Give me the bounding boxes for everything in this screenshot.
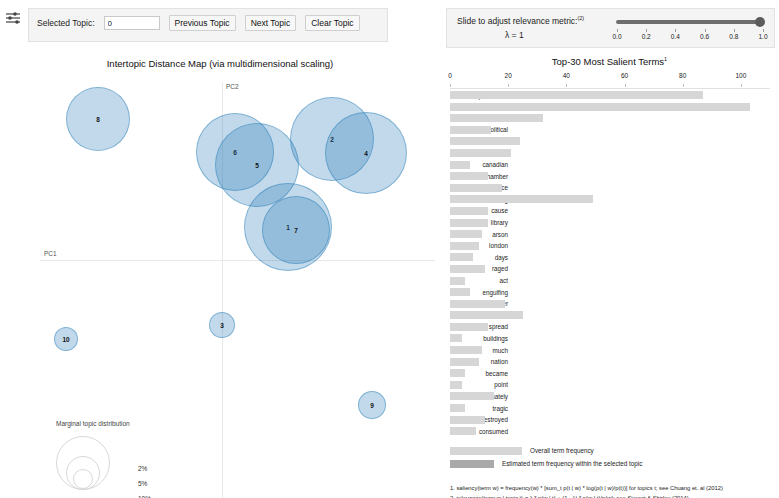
legend-swatch-estimated: [450, 460, 494, 468]
barchart-row[interactable]: spread: [440, 322, 779, 334]
barchart-term-label[interactable]: buildings: [483, 335, 508, 342]
barchart-row[interactable]: became: [440, 368, 779, 380]
relevance-footnote-ref: (2): [577, 15, 584, 21]
barchart-term-label[interactable]: raged: [492, 265, 508, 272]
barchart-row[interactable]: much: [440, 345, 779, 357]
barchart-bar-overall: [450, 103, 750, 111]
barchart-row[interactable]: canadian: [440, 160, 779, 172]
barchart-term-label[interactable]: london: [489, 242, 508, 249]
barchart-term-label[interactable]: canadian: [482, 161, 508, 168]
barchart-row[interactable]: buildings: [440, 333, 779, 345]
barchart-row[interactable]: chamber: [440, 171, 779, 183]
barchart-term-label[interactable]: days: [495, 254, 508, 261]
marginal-legend-label-2: 2%: [138, 465, 147, 472]
barchart-term-label[interactable]: library: [491, 219, 508, 226]
lambda-tick-mark: [705, 29, 706, 32]
barchart-tick-label: 40: [563, 72, 570, 79]
barchart-row[interactable]: iconic: [440, 310, 779, 322]
barchart-row[interactable]: fire: [440, 102, 779, 114]
barchart-bar-overall: [450, 207, 488, 215]
barchart-term-label[interactable]: consumed: [479, 428, 508, 435]
sliders-icon[interactable]: [4, 9, 22, 27]
barchart-bar-overall: [450, 300, 505, 308]
barchart-row[interactable]: destroyed: [440, 415, 779, 427]
barchart-row[interactable]: tragic: [440, 403, 779, 415]
barchart-bar-overall: [450, 416, 485, 424]
relevance-metric-bar: Slide to adjust relevance metric:(2) λ =…: [446, 8, 775, 48]
barchart-term-label[interactable]: arson: [492, 231, 508, 238]
barchart-row[interactable]: london: [440, 241, 779, 253]
barchart-row[interactable]: engulfing: [440, 287, 779, 299]
topic-bubble-label-4: 4: [364, 150, 368, 157]
barchart-title-footnote-ref: 1: [664, 56, 667, 62]
barchart-row[interactable]: days: [440, 252, 779, 264]
barchart-tick-label: 60: [621, 72, 628, 79]
map-title: Intertopic Distance Map (via multidimens…: [0, 58, 440, 69]
barchart-term-label[interactable]: spread: [489, 323, 508, 330]
barchart-bar-overall: [450, 265, 485, 273]
barchart-tick-mark: [450, 84, 451, 87]
barchart-term-label[interactable]: cause: [491, 207, 508, 214]
barchart-bar-overall: [450, 242, 479, 250]
barchart-row[interactable]: consumed: [440, 426, 779, 438]
barchart-term-label[interactable]: engulfing: [482, 289, 508, 296]
barchart-row[interactable]: nation: [440, 357, 779, 369]
footnotes: 1. saliency(term w) = frequency(w) * [su…: [450, 484, 779, 498]
lambda-tick-label: 0.0: [612, 33, 621, 40]
barchart-row[interactable]: houses: [440, 136, 779, 148]
barchart-row[interactable]: burning: [440, 148, 779, 160]
ldavis-root: Selected Topic: Previous Topic Next Topi…: [0, 0, 779, 498]
barchart-row[interactable]: act: [440, 276, 779, 288]
topic-bubble-label-10: 10: [62, 336, 69, 343]
barchart-row[interactable]: library: [440, 218, 779, 230]
intertopic-distance-map: Intertopic Distance Map (via multidimens…: [0, 52, 440, 498]
barchart-bar-overall: [450, 404, 465, 412]
lambda-slider-handle[interactable]: [755, 17, 765, 27]
barchart-bar-overall: [450, 230, 482, 238]
marginal-legend-circle-2: [73, 469, 93, 489]
barchart-bar-overall: [450, 323, 488, 331]
barchart-axis-rule: [450, 88, 770, 89]
barchart-bar-overall: [450, 149, 511, 157]
barchart-tick-mark: [625, 84, 626, 87]
previous-topic-button[interactable]: Previous Topic: [169, 15, 236, 31]
barchart-bar-overall: [450, 334, 462, 342]
barchart-term-label[interactable]: act: [500, 277, 508, 284]
barchart-row[interactable]: building: [440, 194, 779, 206]
relevance-instruction: Slide to adjust relevance metric:(2): [457, 15, 584, 26]
clear-topic-button[interactable]: Clear Topic: [305, 15, 359, 31]
lambda-tick-mark: [675, 29, 676, 32]
lambda-tick-label: 0.2: [642, 33, 651, 40]
selected-topic-input[interactable]: [104, 16, 160, 30]
barchart-bar-overall: [450, 277, 465, 285]
barchart-term-label[interactable]: tragic: [493, 405, 508, 412]
barchart-row[interactable]: political: [440, 125, 779, 137]
barchart-title: Top-30 Most Salient Terms1: [440, 56, 779, 67]
marginal-legend-label-5: 5%: [138, 480, 147, 487]
barchart-row[interactable]: point: [440, 380, 779, 392]
topic-control-bar: Selected Topic: Previous Topic Next Topi…: [28, 8, 388, 42]
next-topic-button[interactable]: Next Topic: [245, 15, 297, 31]
barchart-row[interactable]: ultimately: [440, 391, 779, 403]
lambda-tick-label: 0.8: [729, 33, 738, 40]
barchart-bar-overall: [450, 184, 502, 192]
legend-row-overall: Overall term frequency: [450, 444, 779, 457]
barchart-term-label[interactable]: became: [486, 370, 508, 377]
barchart-row[interactable]: parliament: [440, 90, 779, 102]
barchart-term-label[interactable]: nation: [491, 358, 508, 365]
footnote-2: 2. relevance(term w | topic t) = λ * p(w…: [450, 494, 779, 498]
footnote-1: 1. saliency(term w) = frequency(w) * [su…: [450, 484, 779, 494]
barchart-term-label[interactable]: point: [494, 381, 508, 388]
barchart-row[interactable]: raged: [440, 264, 779, 276]
barchart-term-label[interactable]: much: [493, 347, 508, 354]
barchart-row[interactable]: cause: [440, 206, 779, 218]
legend-label-estimated: Estimated term frequency within the sele…: [502, 460, 642, 467]
barchart-tick-label: 20: [505, 72, 512, 79]
barchart-bar-overall: [450, 253, 473, 261]
barchart-row[interactable]: event: [440, 113, 779, 125]
barchart-row[interactable]: arson: [440, 229, 779, 241]
barchart-row[interactable]: palace: [440, 183, 779, 195]
barchart-row[interactable]: westminster: [440, 299, 779, 311]
barchart-bar-overall: [450, 427, 476, 435]
lambda-slider-track[interactable]: [616, 20, 762, 24]
